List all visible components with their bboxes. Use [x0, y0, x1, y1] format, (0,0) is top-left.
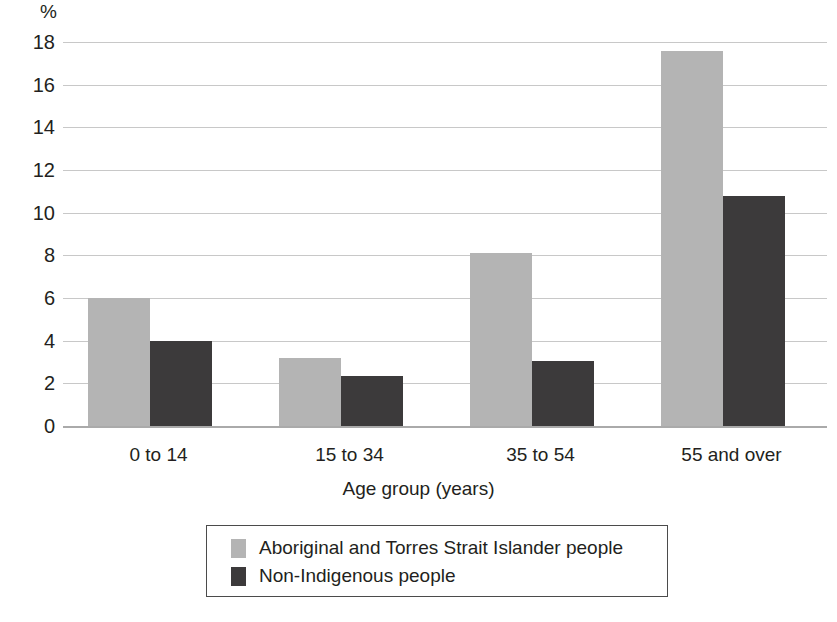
x-tick-label: 15 to 34 [254, 443, 445, 467]
x-tick-label: 55 and over [636, 443, 827, 467]
y-tick-label: 2 [11, 373, 55, 393]
bar [723, 196, 785, 426]
y-tick-label: 8 [11, 245, 55, 265]
legend-item: Aboriginal and Torres Strait Islander pe… [231, 534, 667, 562]
bar [532, 361, 594, 426]
legend-swatch-icon [231, 567, 246, 586]
bar-chart: % 024681012141618 0 to 1415 to 3435 to 5… [0, 0, 837, 622]
y-axis-unit-label: % [40, 2, 57, 21]
bar [88, 298, 150, 426]
plot-area [63, 42, 827, 426]
gridline [63, 42, 827, 43]
legend-item-label: Aboriginal and Torres Strait Islander pe… [259, 537, 623, 559]
legend: Aboriginal and Torres Strait Islander pe… [206, 525, 668, 597]
bar [279, 358, 341, 426]
legend-item: Non-Indigenous people [231, 562, 667, 590]
legend-swatch-icon [231, 539, 246, 558]
y-tick-label: 18 [11, 32, 55, 52]
bar [470, 253, 532, 426]
y-tick-label: 10 [11, 203, 55, 223]
y-tick-label: 4 [11, 331, 55, 351]
y-tick-label: 12 [11, 160, 55, 180]
x-tick-label: 0 to 14 [63, 443, 254, 467]
y-tick-label: 16 [11, 75, 55, 95]
legend-item-label: Non-Indigenous people [259, 565, 456, 587]
x-axis-title: Age group (years) [0, 477, 837, 501]
y-tick-label: 14 [11, 117, 55, 137]
axis-baseline [63, 426, 827, 428]
x-axis-tick-labels: 0 to 1415 to 3435 to 5455 and over [63, 443, 827, 473]
y-axis-tick-labels: 024681012141618 [5, 42, 55, 426]
y-tick-label: 0 [11, 416, 55, 436]
y-tick-label: 6 [11, 288, 55, 308]
x-tick-label: 35 to 54 [445, 443, 636, 467]
bar [150, 341, 212, 426]
bar [341, 376, 403, 426]
bar [661, 51, 723, 426]
